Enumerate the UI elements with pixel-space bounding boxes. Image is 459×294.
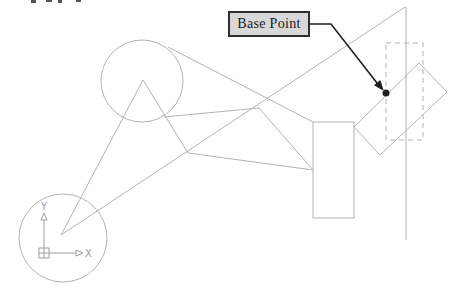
base-point-callout: Base Point [228, 11, 310, 37]
leader-line [310, 24, 377, 83]
figure-canvas: XY Base Point [0, 0, 459, 294]
cropped-text-fragment [46, 0, 52, 2]
cropped-text-fragment [31, 0, 36, 3]
rectangle [313, 122, 354, 218]
cad-drawing: XY [0, 0, 459, 294]
circle-to-rectangle-line [168, 47, 313, 122]
small-circle [19, 194, 107, 282]
triangle-left-leg [61, 80, 143, 235]
lower-connector-line [188, 153, 313, 170]
dashed-rectangle [386, 43, 423, 140]
ucs-x-arrowhead-icon [76, 250, 83, 256]
long-diagonal-line [61, 7, 405, 235]
base-point-label: Base Point [237, 16, 300, 32]
base-point-dot [383, 90, 390, 97]
cropped-text-fragment [76, 0, 81, 2]
rotated-rectangle [354, 63, 447, 155]
cropped-text-fragment [58, 0, 62, 3]
ucs-x-label: X [85, 248, 92, 259]
ucs-y-arrowhead-icon [41, 213, 47, 220]
ucs-y-label: Y [40, 201, 48, 212]
